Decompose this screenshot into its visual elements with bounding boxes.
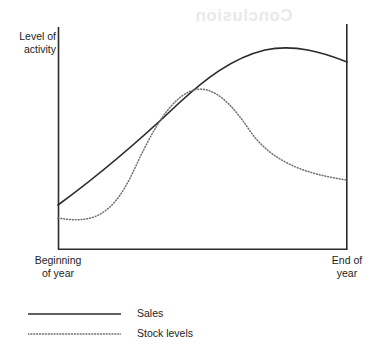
legend-item-stock-levels: Stock levels [0,327,385,345]
x-axis-label-beginning-of-year: Beginning of year [8,254,108,279]
legend-label-stock-levels: Stock levels [137,327,193,339]
legend-swatch-solid-line [28,307,121,321]
series-line-sales [58,48,347,205]
y-axis-title: Level of activity [0,30,56,55]
x-axis-label-end-of-year: End of year [311,254,383,279]
chart-figure: Conclusion Level of activity Beginning o… [0,0,385,359]
legend-label-sales: Sales [137,307,163,319]
chart-legend: Sales Stock levels [0,300,385,352]
legend-swatch-dotted-line [28,327,121,341]
legend-item-sales: Sales [0,307,385,325]
series-line-stock-levels [58,89,347,220]
